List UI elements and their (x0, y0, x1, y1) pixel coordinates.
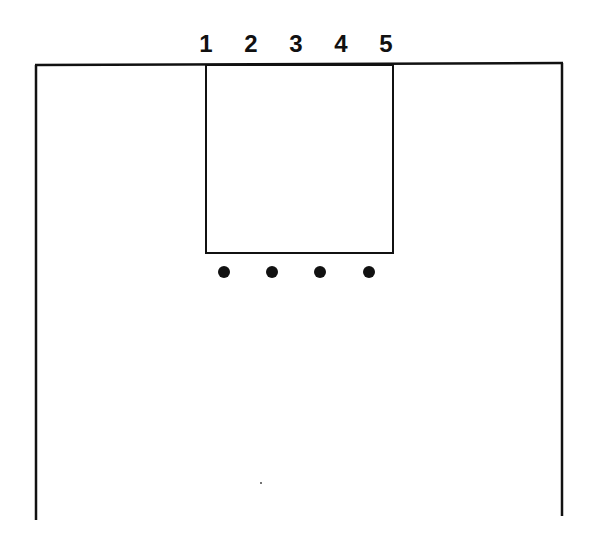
player-dot (218, 266, 230, 278)
position-label-2: 2 (244, 30, 257, 57)
court-outline (35, 63, 563, 520)
position-label-4: 4 (334, 30, 348, 57)
lane-box (206, 65, 393, 253)
player-dot (314, 266, 326, 278)
stray-mark (260, 482, 262, 484)
position-label-1: 1 (199, 30, 212, 57)
position-labels: 1 2 3 4 5 (199, 30, 392, 57)
player-dot (266, 266, 278, 278)
position-label-3: 3 (289, 30, 302, 57)
player-dot (363, 266, 375, 278)
position-label-5: 5 (379, 30, 392, 57)
player-dots (218, 266, 375, 278)
court-diagram: 1 2 3 4 5 (0, 0, 592, 543)
